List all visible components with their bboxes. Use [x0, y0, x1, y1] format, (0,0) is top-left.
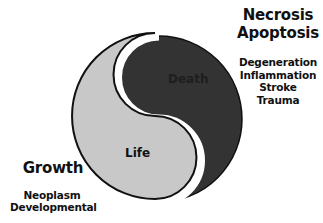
death-cause-stroke: Stroke	[232, 82, 323, 95]
growth-causes-list: Neoplasm Developmental	[10, 190, 94, 214]
death-cause-trauma: Trauma	[232, 95, 323, 108]
death-label: Death	[168, 73, 208, 85]
apoptosis-title: Apoptosis	[234, 26, 322, 41]
necrosis-title: Necrosis	[238, 8, 318, 23]
growth-cause-developmental: Developmental	[10, 202, 94, 214]
growth-title: Growth	[22, 161, 84, 176]
life-label: Life	[125, 147, 150, 159]
death-cause-degeneration: Degeneration	[232, 57, 323, 70]
death-causes-list: Degeneration Inflammation Stroke Trauma	[232, 57, 323, 107]
